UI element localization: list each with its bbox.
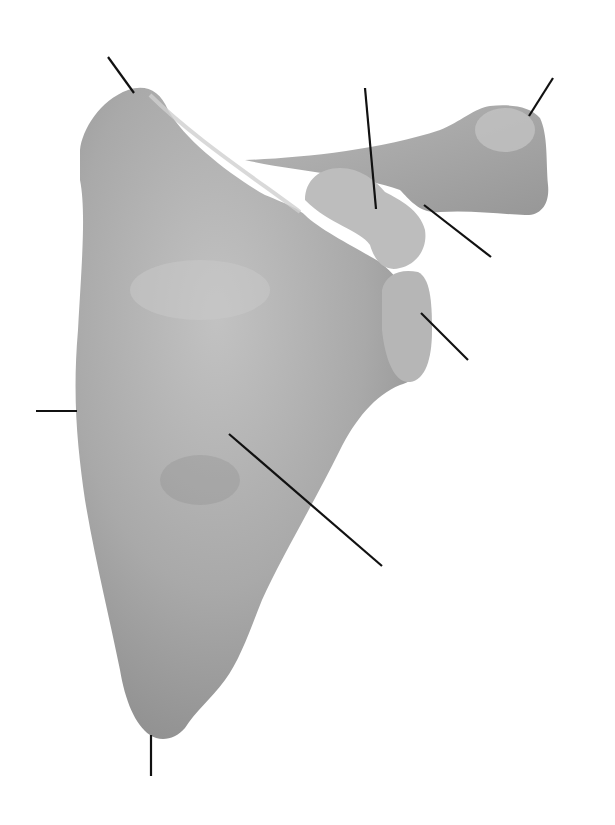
acromion-highlight: [475, 108, 535, 152]
body-highlight: [130, 260, 270, 320]
fossa-shadow: [160, 455, 240, 505]
leader-line-glenoid-neck: [424, 205, 491, 257]
leader-line-acromion: [529, 78, 553, 116]
scapula-illustration: [0, 0, 615, 825]
leader-line-superior-angle: [108, 57, 134, 93]
scapula-diagram: [0, 0, 615, 825]
